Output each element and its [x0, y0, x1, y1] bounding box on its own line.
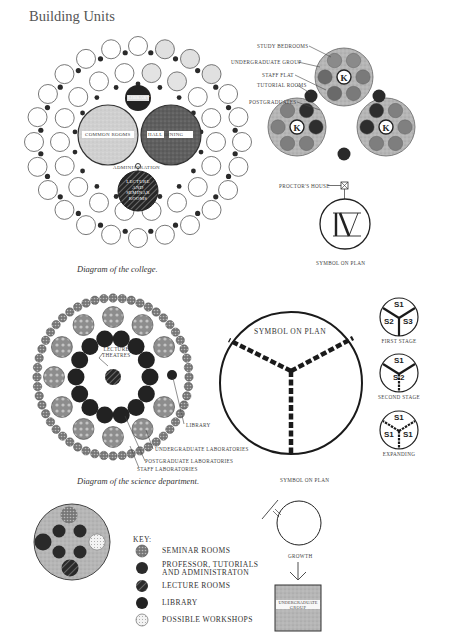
undergraduate-lab-circle: [154, 337, 175, 358]
staff-lab-circle: [166, 320, 174, 328]
staff-lab-circle: [184, 382, 192, 390]
tutorial-dot: [114, 85, 119, 90]
undergraduate-labs-label: UNDERGRADUATE LABORATORIES: [155, 446, 249, 452]
staff-lab-circle: [100, 451, 108, 459]
tutorial-dot: [98, 56, 103, 61]
undergraduate-lab-circle: [154, 397, 175, 418]
study-bedroom-circle: [369, 103, 383, 117]
postgraduate-labs-label: POSTGRADUATE LABORATORIES: [145, 458, 233, 464]
staff-lab-circle: [166, 425, 174, 433]
stage-sector-label: 2: [400, 373, 404, 382]
study-bedroom-circle: [188, 88, 207, 107]
growth-label: GROWTH: [288, 553, 313, 559]
lecture-theatre-circle: [105, 369, 121, 385]
stage-sector-label: S2: [384, 317, 394, 326]
staff-lab-circle: [58, 432, 66, 440]
tutorial-dot: [177, 184, 182, 189]
staff-lab-circle: [38, 345, 46, 353]
study-bedroom-circle: [207, 133, 226, 152]
study-bedroom-circle: [229, 108, 248, 127]
tutorial-dot: [157, 194, 162, 199]
tutorial-dot: [45, 105, 50, 110]
key-library: LIBRARY: [162, 599, 198, 607]
staff-lab-circle: [58, 314, 66, 322]
study-bedroom-circle: [369, 136, 383, 150]
seminar-room-sample: [61, 507, 78, 524]
study-bedroom-circle: [388, 136, 402, 150]
stage-sector-label: S1: [394, 413, 404, 422]
staff-lab-circle: [109, 294, 117, 302]
stage-sector-label: S1: [394, 356, 404, 365]
study-bedroom-circle: [271, 120, 285, 134]
kitchen-k-label: K: [340, 73, 347, 83]
stage-sector-label: S3: [403, 317, 413, 326]
study-bedroom-circle: [202, 65, 221, 84]
library-sample: [35, 534, 52, 551]
science-diagram: [33, 294, 193, 460]
staff-lab-circle: [118, 451, 126, 459]
study-bedroom-circle: [55, 156, 74, 175]
staff-lab-circle: [144, 303, 152, 311]
college-diagram: [25, 37, 252, 248]
study-bedroom-circle: [219, 181, 238, 200]
undergraduate-group-label: UNDERGRADUATE GROUP: [231, 59, 301, 65]
college-caption: Diagram of the college.: [77, 264, 158, 274]
staff-lab-circle: [118, 294, 126, 302]
study-bedroom-circle: [129, 37, 148, 56]
study-bedroom-circle: [219, 85, 238, 104]
stage-caption: EXPANDING: [377, 451, 421, 457]
staff-lab-circle: [136, 447, 144, 455]
tutorial-dot: [177, 95, 182, 100]
lecture-rooms-key-icon: [136, 580, 148, 592]
undergraduate-group-box-label: UNDERGRADUATE GROUP: [276, 600, 320, 610]
tutorial-dot: [45, 174, 50, 179]
tutorial-dot: [58, 85, 63, 90]
study-bedroom-circle: [388, 103, 402, 117]
study-bedroom-circle: [168, 72, 187, 91]
staff-labs-label: STAFF LABORATORIES: [137, 466, 198, 472]
tutorial-dot: [76, 211, 81, 216]
science-caption: Diagram of the science department.: [77, 476, 199, 486]
tutorial-dot: [173, 223, 178, 228]
study-bedroom-circle: [181, 216, 200, 235]
staff-lab-circle: [159, 314, 167, 322]
study-bedroom-circle: [155, 40, 174, 59]
undergraduate-lab-circle: [103, 307, 124, 328]
staff-lab-circle: [183, 354, 191, 362]
tutorial-dot: [213, 194, 218, 199]
study-bedroom-circle: [280, 136, 294, 150]
staff-lab-circle: [127, 296, 135, 304]
staff-lab-circle: [38, 401, 46, 409]
undergraduate-lab-circle: [132, 315, 153, 336]
tutorial-dot: [76, 68, 81, 73]
staff-lab-circle: [82, 447, 90, 455]
staff-lab-circle: [33, 363, 41, 371]
kitchen-k-label: K: [382, 123, 389, 133]
study-bedroom-circle: [102, 225, 121, 244]
symbol-on-plan-caption-top: SYMBOL ON PLAN: [316, 260, 365, 266]
study-bedroom-circle: [115, 64, 134, 83]
staff-lab-circle: [152, 438, 160, 446]
study-bedroom-circle: [129, 229, 148, 248]
study-bedrooms-label: STUDY BEDROOMS: [257, 43, 308, 49]
tutorial-dot: [114, 194, 119, 199]
key-possible-workshops: POSSIBLE WORKSHOPS: [162, 616, 253, 624]
tutorial-dot: [213, 85, 218, 90]
workshop-sample: [89, 534, 105, 550]
tutorial-dot: [199, 150, 204, 155]
staff-lab-circle: [100, 294, 108, 302]
study-bedroom-circle: [202, 156, 221, 175]
common-rooms-label: COMMON ROOMS: [85, 132, 131, 137]
tutorial-dot: [73, 150, 78, 155]
symbol-on-plan-caption: SYMBOL ON PLAN: [280, 477, 329, 483]
tutorial-dot: [123, 50, 128, 55]
postgraduate-lab-circle: [81, 399, 98, 416]
stage-sector-label: S1: [403, 430, 413, 439]
administration-label: ADMINISTRATION: [113, 165, 160, 170]
staff-lab-circle: [46, 328, 54, 336]
tutorial-dot: [226, 174, 231, 179]
postgraduate-lab-circle: [96, 407, 113, 424]
study-bedroom-circle: [155, 225, 174, 244]
lecture-seminar-label: LECTURE AND SEMINAR ROOMS: [124, 179, 152, 201]
postgraduate-lab-circle: [138, 385, 155, 402]
